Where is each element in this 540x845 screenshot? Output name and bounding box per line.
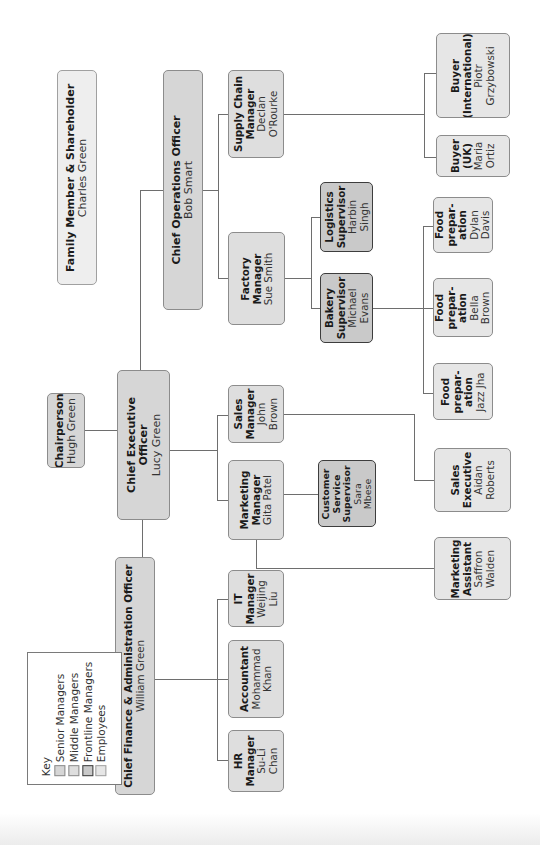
node-it-manager[interactable]: IT Manager Weijing Liu	[228, 570, 284, 627]
legend-entry-employees: Employees	[95, 661, 109, 775]
node-food-prep-dylan-davis[interactable]: Food prepar- ation Dylan Davis	[433, 197, 493, 253]
node-person-name: Su-Li	[256, 736, 268, 787]
node-person-name: Roberts	[484, 452, 496, 508]
node-person-name: John	[256, 389, 268, 440]
node-accountant[interactable]: Accountant Mohammad Khan	[228, 640, 284, 718]
node-title-line: Customer	[321, 465, 332, 522]
node-person-name: William Green	[135, 564, 147, 787]
node-person-name: Bob Smart	[183, 115, 195, 264]
node-person-name: Evans	[358, 277, 370, 340]
node-title-line: Logistics	[323, 186, 335, 249]
node-person-name: Ortiz	[485, 139, 497, 173]
legend-entry-senior: Senior Managers	[54, 661, 68, 775]
node-chairperson[interactable]: Chairperson Hugh Green	[47, 393, 85, 468]
legend-label: Senior Managers	[54, 673, 66, 761]
connector-line	[423, 308, 433, 309]
node-title-line: Officer	[137, 397, 149, 493]
node-person-name: Grzybowski	[485, 33, 497, 118]
node-marketing-assistant[interactable]: Marketing Assistant Saffron Walden	[434, 537, 511, 600]
swatch-employees-icon	[95, 765, 106, 776]
node-customer-service-supervisor[interactable]: Customer Service Supervisor Sara Mbese	[318, 460, 376, 527]
node-sales-manager[interactable]: Sales Manager John Brown	[228, 385, 284, 443]
connector-line	[423, 226, 424, 393]
node-coo[interactable]: Chief Operations Officer Bob Smart	[163, 70, 203, 310]
node-person-name: Chan	[268, 736, 280, 787]
node-person-name: Hugh Green	[66, 393, 78, 468]
node-title-line: Food	[440, 370, 452, 413]
connector-line	[423, 393, 433, 394]
connector-line	[373, 308, 423, 309]
connector-line	[311, 217, 312, 309]
connector-line	[217, 760, 228, 761]
legend-label: Frontline Managers	[81, 661, 93, 761]
node-person-name: Harbin	[347, 186, 359, 249]
node-title-line: Supply Chain	[233, 76, 245, 152]
node-supply-chain-manager[interactable]: Supply Chain Manager Declan O'Rourke	[228, 70, 284, 158]
swatch-senior-icon	[54, 765, 65, 776]
node-buyer-international[interactable]: Buyer (International) Piotr Grzybowski	[436, 33, 510, 118]
node-food-prep-jazz-jha[interactable]: Food prepar- ation Jazz Jha	[433, 363, 493, 420]
node-person-name: Davis	[480, 203, 492, 246]
node-ceo[interactable]: Chief Executive Officer Lucy Green	[117, 370, 170, 520]
node-bakery-supervisor[interactable]: Bakery Supervisor Michael Evans	[320, 273, 373, 343]
node-title-line: Manager	[251, 252, 263, 305]
node-person-name: Brown	[480, 286, 492, 329]
connector-line	[284, 114, 424, 115]
node-title: Chief Finance & Administration Officer	[123, 564, 135, 787]
node-title-line: IT	[233, 573, 245, 624]
node-logistics-supervisor[interactable]: Logistics Supervisor Harbin Singh	[320, 182, 373, 252]
node-person-name: Charles Green	[77, 83, 89, 271]
connector-line	[218, 278, 228, 279]
node-person-name: Khan	[262, 646, 274, 712]
node-person-name: Liu	[268, 573, 280, 624]
connector-line	[85, 430, 117, 431]
connector-line	[311, 217, 320, 218]
node-title-line: Assistant	[461, 539, 473, 598]
node-person-name: Declan	[256, 76, 268, 152]
connector-line	[424, 73, 425, 157]
connector-line	[424, 73, 436, 74]
node-title-line: Food	[434, 203, 446, 246]
node-title-line: Bakery	[323, 277, 335, 340]
node-factory-manager[interactable]: Factory Manager Sue Smith	[228, 232, 285, 325]
node-title-line: Supervisor	[342, 465, 353, 522]
legend-label: Middle Managers	[68, 672, 80, 762]
legend-content: Key Senior Managers Middle Managers Fron…	[40, 661, 109, 775]
node-title-line: HR	[233, 736, 245, 787]
node-person-name: Aidan	[473, 452, 485, 508]
connector-line	[217, 679, 228, 680]
legend-entry-middle: Middle Managers	[68, 661, 82, 775]
connector-line	[285, 278, 311, 279]
connector-line	[284, 494, 318, 495]
connector-line	[170, 450, 217, 451]
node-food-prep-bella-brown[interactable]: Food prepar- ation Bella Brown	[433, 278, 493, 337]
connector-line	[217, 599, 228, 600]
node-family-member[interactable]: Family Member & Shareholder Charles Gree…	[57, 70, 97, 285]
connector-line	[218, 114, 219, 279]
legend-label: Employees	[95, 704, 107, 761]
node-title-line: Chief Executive	[125, 397, 137, 493]
node-sales-executive[interactable]: Sales Executive Aidan Roberts	[434, 448, 511, 512]
connector-line	[155, 679, 217, 680]
node-title-line: Executive	[461, 452, 473, 508]
node-person-name: Gita Patel	[262, 471, 274, 530]
connector-line	[414, 480, 434, 481]
connector-line	[217, 415, 228, 416]
connector-line	[140, 190, 163, 191]
connector-line	[256, 540, 257, 568]
node-title-line: ation	[457, 203, 469, 246]
node-title-line: ation	[457, 286, 469, 329]
node-person-name: Sue Smith	[262, 252, 274, 305]
connector-line	[218, 114, 228, 115]
node-buyer-uk[interactable]: Buyer (UK) Maria Ortiz	[436, 135, 510, 177]
node-person-name: Piotr	[473, 33, 485, 118]
node-marketing-manager[interactable]: Marketing Manager Gita Patel	[228, 460, 284, 540]
connector-line	[423, 226, 433, 227]
node-person-name: Maria	[473, 139, 485, 173]
connector-line	[424, 157, 436, 158]
node-person-name: Singh	[358, 186, 370, 249]
node-person-name: Michael	[347, 277, 359, 340]
node-title-line: Buyer	[450, 33, 462, 118]
node-hr-manager[interactable]: HR Manager Su-Li Chan	[228, 730, 284, 792]
node-person-name: Weijing	[256, 573, 268, 624]
